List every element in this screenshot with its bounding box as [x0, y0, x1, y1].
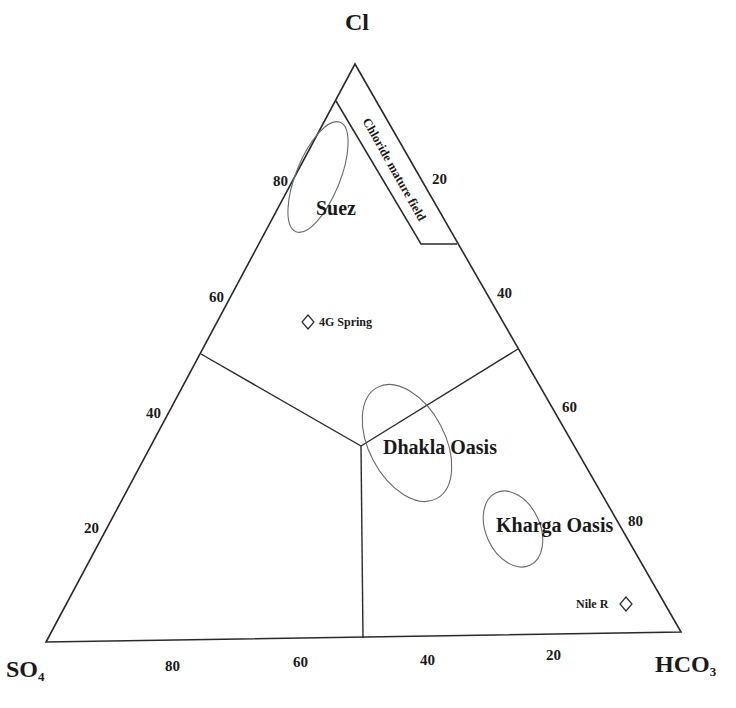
tick-bottom-20: 20	[546, 648, 561, 663]
spring-label: 4G Spring	[319, 316, 372, 328]
division-line-left	[201, 354, 361, 446]
nile-label: Nile R	[576, 598, 608, 610]
ternary-triangle	[46, 64, 681, 642]
apex-label-cl: Cl	[345, 10, 369, 34]
kharga-label: Kharga Oasis	[496, 515, 613, 535]
tick-bottom-80: 80	[165, 659, 180, 674]
apex-label-so4: SO4	[6, 657, 45, 683]
suez-label: Suez	[316, 198, 356, 218]
division-line-right	[361, 349, 518, 446]
tick-bottom-60: 60	[293, 655, 308, 670]
tick-bottom-40: 40	[420, 653, 435, 668]
tick-right-40: 40	[497, 286, 512, 301]
tick-left-40: 40	[146, 406, 161, 421]
nile-diamond-marker	[620, 597, 632, 611]
dhakla-label: Dhakla Oasis	[383, 437, 497, 457]
tick-left-60: 60	[209, 290, 224, 305]
tick-left-80: 80	[273, 174, 288, 189]
ternary-diagram	[0, 0, 736, 708]
tick-right-80: 80	[628, 514, 643, 529]
apex-label-hco3: HCO3	[655, 652, 716, 678]
spring-diamond-marker	[302, 315, 314, 329]
tick-right-60: 60	[562, 400, 577, 415]
tick-left-20: 20	[84, 521, 99, 536]
tick-right-20: 20	[432, 172, 447, 187]
division-line-bottom	[361, 446, 363, 638]
